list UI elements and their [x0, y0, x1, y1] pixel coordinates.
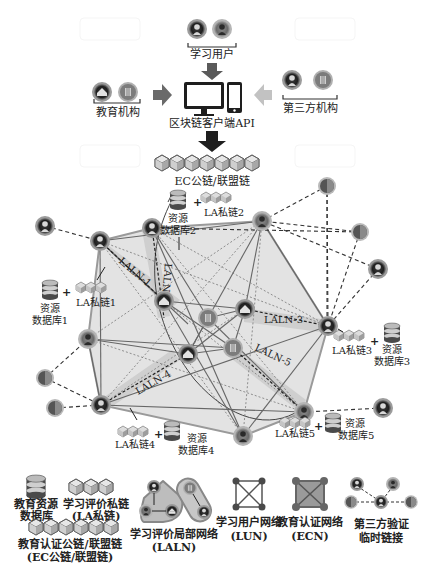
node-learner-icon [91, 395, 111, 415]
svg-text:+: + [370, 335, 379, 348]
node-school-icon [235, 299, 255, 319]
svg-text:LA私链1: LA私链1 [76, 296, 116, 308]
resource-group-3: LA私链3 + 资源 数据库3 [332, 323, 410, 367]
legend: 教育资源 数据库 学习评价私链 (LA私链) 教育认证公链/联盟链 (EC公链/… [13, 475, 418, 564]
svg-text:+: + [62, 286, 71, 299]
svg-text:学习用户网络: 学习用户网络 [216, 515, 282, 529]
svg-text:教育认证网络: 教育认证网络 [276, 515, 343, 529]
svg-text:第三方验证: 第三方验证 [354, 517, 409, 531]
svg-text:LA私链3: LA私链3 [332, 344, 372, 356]
svg-text:数据库1: 数据库1 [32, 314, 68, 326]
svg-text:(LALN): (LALN) [152, 541, 196, 554]
third-party-node-icon [36, 369, 54, 387]
svg-text:资源: 资源 [40, 302, 60, 314]
building-icon [118, 82, 138, 102]
arrow-left-icon [254, 84, 272, 106]
client-api-icon [184, 82, 242, 116]
svg-text:资源: 资源 [382, 343, 402, 355]
node-learner-icon [78, 329, 98, 349]
svg-text:教育资源: 教育资源 [13, 497, 58, 511]
legend-third-party: 第三方验证 临时链接 [344, 477, 418, 545]
edu-institution-group: 教育机构 [92, 82, 140, 119]
edu-institution-label: 教育机构 [96, 105, 140, 119]
svg-text:资源: 资源 [168, 212, 188, 224]
database-icon [384, 323, 400, 343]
svg-text:数据库3: 数据库3 [374, 355, 410, 367]
database-icon [164, 421, 180, 441]
svg-text:学习评价局部网络: 学习评价局部网络 [130, 527, 218, 541]
node-learner-icon [90, 231, 110, 251]
database-icon [42, 280, 58, 300]
third-party-node-icon [368, 259, 388, 279]
third-party-group: 第三方机构 [282, 70, 338, 115]
svg-text:数据库5: 数据库5 [338, 429, 374, 441]
learning-users-label: 学习用户 [190, 47, 234, 61]
svg-text:LA私链2: LA私链2 [204, 206, 244, 218]
third-party-label: 第三方机构 [283, 101, 338, 115]
legend-laln: 学习评价局部网络 (LALN) [130, 475, 218, 554]
third-party-node-icon [35, 216, 55, 236]
learner-avatar-icon [212, 19, 232, 39]
node-school-icon [178, 344, 198, 364]
svg-text:LA私链5: LA私链5 [275, 427, 315, 439]
third-party-building-icon [313, 70, 333, 90]
svg-text:LA私链4: LA私链4 [115, 438, 155, 450]
node-learner-icon [233, 426, 253, 446]
svg-text:资源: 资源 [345, 417, 365, 429]
svg-text:(ECN): (ECN) [291, 530, 329, 543]
third-party-person-icon [282, 70, 302, 90]
node-school-icon [154, 291, 174, 311]
legend-lun: 学习用户网络 (LUN) [216, 478, 282, 544]
svg-text:数据库2: 数据库2 [160, 224, 196, 236]
arrow-down-dark-icon [198, 131, 226, 152]
third-party-node-icon [373, 398, 393, 418]
node-learner-icon [252, 211, 272, 231]
ec-chain-label: EC公链/联盟链 [174, 174, 249, 188]
svg-text:临时链接: 临时链接 [359, 531, 403, 545]
arrow-down-icon [201, 63, 223, 80]
svg-text:教育认证公链/联盟链: 教育认证公链/联盟链 [17, 537, 122, 551]
database-icon [170, 190, 186, 210]
svg-text:+: + [314, 420, 323, 433]
blockchain-education-architecture-diagram: 学习用户 教育机构 第三方机构 区块链客户端API EC公链/联盟链 [0, 0, 439, 575]
legend-ec-chain: 教育认证公链/联盟链 (EC公链/联盟链) [17, 519, 122, 564]
node-institution-icon [198, 308, 218, 328]
learning-users-group: 学习用户 [187, 19, 236, 61]
school-icon [92, 82, 112, 102]
svg-text:(LUN): (LUN) [230, 530, 267, 543]
ec-chain-icon [155, 155, 259, 171]
svg-text:资源: 资源 [187, 432, 207, 444]
node-institution-icon [223, 338, 243, 358]
svg-text:(EC公链/联盟链): (EC公链/联盟链) [27, 550, 114, 564]
legend-edu-db: 教育资源 数据库 [13, 475, 58, 523]
svg-text:学习评价私链: 学习评价私链 [63, 497, 130, 511]
learner-avatar-icon [187, 19, 207, 39]
arrow-right-icon [153, 84, 172, 106]
client-api-label: 区块链客户端API [169, 116, 255, 130]
legend-ecn: 教育认证网络 (ECN) [276, 477, 343, 543]
third-party-node-icon [46, 399, 64, 417]
third-party-node-icon [318, 177, 336, 195]
laln-3-label: LALN-3 [264, 314, 303, 325]
svg-text:数据库4: 数据库4 [178, 444, 214, 456]
network-background [88, 221, 328, 436]
third-party-node-icon [351, 223, 369, 241]
svg-text:+: + [154, 428, 163, 441]
legend-la-chain: 学习评价私链 (LA私链) [63, 479, 130, 523]
